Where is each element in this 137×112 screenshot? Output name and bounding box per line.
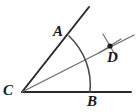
vertex-label-b: B bbox=[87, 94, 97, 109]
vertex-label-c: C bbox=[3, 83, 13, 98]
vertex-label-a: A bbox=[53, 24, 63, 39]
vertex-label-d: D bbox=[107, 50, 118, 65]
point-marker-d bbox=[107, 43, 112, 48]
points-group bbox=[107, 43, 112, 48]
geometry-diagram: C A B D bbox=[0, 0, 137, 112]
